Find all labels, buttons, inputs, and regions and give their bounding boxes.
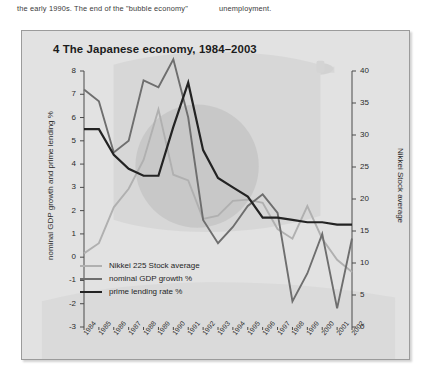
chart-panel: 4 The Japanese economy, 1984–2003 nomina… xyxy=(21,30,410,360)
legend-label: prime lending rate % xyxy=(109,287,182,296)
legend-item: prime lending rate % xyxy=(80,285,200,298)
y-left-tick-label: -2 xyxy=(54,299,76,308)
y-right-tick-label: 40 xyxy=(360,66,382,75)
legend-label: Nikkei 225 Stock average xyxy=(109,261,200,270)
y-left-tick-label: 4 xyxy=(54,159,76,168)
y-left-tick-label: 6 xyxy=(54,113,76,122)
series-line xyxy=(84,109,352,272)
y-left-tick-label: 1 xyxy=(54,229,76,238)
body-text-column-b: unemployment. xyxy=(219,4,271,13)
y-left-tick-label: 3 xyxy=(54,182,76,191)
legend-item: nominal GDP growth % xyxy=(80,272,200,285)
legend-color-swatch xyxy=(80,278,102,280)
y-left-tick-label: 0 xyxy=(54,252,76,261)
y-left-tick-label: 8 xyxy=(54,66,76,75)
plot-svg xyxy=(22,31,410,360)
y-right-tick-label: 20 xyxy=(360,194,382,203)
y-right-tick-label: 15 xyxy=(360,226,382,235)
body-text-block: the early 1990s. The end of the "bubble … xyxy=(0,0,432,26)
body-text-column-a: the early 1990s. The end of the "bubble … xyxy=(17,4,188,13)
y-left-tick-label: 2 xyxy=(54,206,76,215)
y-axis-right-title: Nikkei Stock average xyxy=(396,121,405,251)
legend-color-swatch xyxy=(80,265,102,267)
chart-legend: Nikkei 225 Stock averagenominal GDP grow… xyxy=(80,259,200,298)
legend-label: nominal GDP growth % xyxy=(109,274,192,283)
legend-item: Nikkei 225 Stock average xyxy=(80,259,200,272)
plot-area xyxy=(22,31,410,360)
y-right-tick-label: 10 xyxy=(360,258,382,267)
y-right-tick-label: 5 xyxy=(360,290,382,299)
y-right-tick-label: 25 xyxy=(360,162,382,171)
y-left-tick-label: -3 xyxy=(54,322,76,331)
series-line xyxy=(84,83,352,225)
legend-color-swatch xyxy=(80,291,102,293)
y-right-tick-label: 35 xyxy=(360,98,382,107)
y-left-tick-label: 5 xyxy=(54,136,76,145)
y-right-tick-label: 30 xyxy=(360,130,382,139)
y-left-tick-label: -1 xyxy=(54,275,76,284)
y-left-tick-label: 7 xyxy=(54,89,76,98)
